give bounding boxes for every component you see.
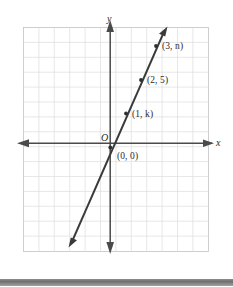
x-axis-label: x — [216, 138, 220, 148]
point-label-2-5: (2, 5) — [147, 76, 168, 86]
point-label-0-0: (0, 0) — [117, 152, 138, 162]
point-marker-0-0 — [108, 146, 112, 150]
point-marker-3n — [154, 44, 158, 48]
origin-label: O — [101, 133, 108, 143]
coordinate-graph-canvas — [0, 0, 233, 287]
page-bottom-bar — [0, 279, 233, 286]
point-marker-1k — [124, 112, 128, 116]
figure-container: y x O (3, n) (2, 5) (1, k) (0, 0) — [0, 0, 233, 287]
point-label-1k: (1, k) — [132, 110, 153, 120]
point-marker-2-5 — [139, 78, 143, 82]
y-axis-label: y — [107, 14, 111, 24]
point-label-3n: (3, n) — [162, 42, 183, 52]
